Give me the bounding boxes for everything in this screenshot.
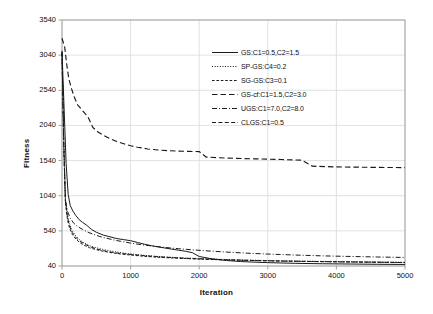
legend-item-label: UGS:C1=7.0,C2=8.0 bbox=[241, 105, 304, 112]
x-tick-label: 5000 bbox=[385, 271, 425, 280]
legend-line-swatch bbox=[212, 48, 238, 57]
y-tick-label: 540 bbox=[22, 226, 56, 235]
x-tick-label: 2000 bbox=[179, 271, 219, 280]
legend-item: SG-GS:C3=0.1 bbox=[212, 73, 352, 87]
legend-item-label: SP-GS:C4=0.2 bbox=[241, 63, 286, 70]
legend-line-swatch bbox=[212, 104, 238, 113]
y-tick-label: 3040 bbox=[22, 50, 56, 59]
legend-item: SP-GS:C4=0.2 bbox=[212, 59, 352, 73]
fitness-vs-iteration-chart: Fitness Iteration 4054010401540204025403… bbox=[0, 0, 433, 314]
x-tick-label: 1000 bbox=[111, 271, 151, 280]
y-tick-label: 3540 bbox=[22, 15, 56, 24]
legend-line-swatch bbox=[212, 76, 238, 85]
chart-legend: GS:C1=0.5,C2=1.5SP-GS:C4=0.2SG-GS:C3=0.1… bbox=[212, 45, 352, 129]
x-tick-label: 0 bbox=[42, 271, 82, 280]
y-tick-label: 1040 bbox=[22, 191, 56, 200]
y-tick-label: 40 bbox=[22, 261, 56, 270]
legend-line-swatch bbox=[212, 90, 238, 99]
legend-item-label: GS:C1=0.5,C2=1.5 bbox=[241, 49, 299, 56]
y-tick-label: 2540 bbox=[22, 85, 56, 94]
x-tick-label: 4000 bbox=[316, 271, 356, 280]
y-tick-label: 1540 bbox=[22, 156, 56, 165]
x-tick-label: 3000 bbox=[248, 271, 288, 280]
y-tick-label: 2040 bbox=[22, 120, 56, 129]
legend-line-swatch bbox=[212, 118, 238, 127]
legend-item-label: CLGS:C1=0.5 bbox=[241, 119, 284, 126]
x-axis-title: Iteration bbox=[0, 288, 433, 297]
legend-item: UGS:C1=7.0,C2=8.0 bbox=[212, 101, 352, 115]
legend-item-label: GS-cf:C1=1.5,C2=3.0 bbox=[241, 91, 306, 98]
legend-item-label: SG-GS:C3=0.1 bbox=[241, 77, 287, 84]
legend-line-swatch bbox=[212, 62, 238, 71]
legend-item: GS:C1=0.5,C2=1.5 bbox=[212, 45, 352, 59]
legend-item: GS-cf:C1=1.5,C2=3.0 bbox=[212, 87, 352, 101]
legend-item: CLGS:C1=0.5 bbox=[212, 115, 352, 129]
